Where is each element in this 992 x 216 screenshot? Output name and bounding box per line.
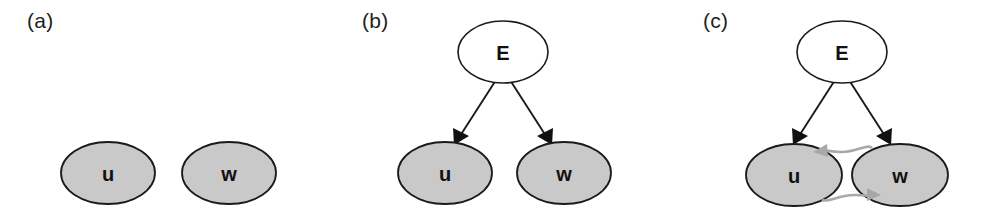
node-u: u: [398, 142, 492, 204]
node-e: E: [797, 21, 887, 83]
panel-c-graph: E u w: [670, 0, 992, 216]
node-e-label: E: [835, 42, 848, 64]
edge-e-to-w-line: [849, 80, 885, 136]
edge-e-to-u: [792, 80, 835, 145]
panel-a: (a) u w: [0, 0, 330, 216]
edge-e-to-u: [453, 80, 496, 145]
node-e: E: [458, 21, 548, 83]
node-u-label: u: [788, 165, 800, 187]
node-w: w: [517, 142, 611, 204]
panel-c: (c) E u: [670, 0, 992, 216]
node-e-label: E: [496, 42, 509, 64]
edge-association-top-curve: [822, 147, 872, 152]
edge-e-to-w: [849, 80, 892, 145]
edge-e-to-u-line: [460, 80, 496, 136]
node-w: w: [182, 142, 276, 204]
edge-e-to-u-arrowhead: [792, 128, 808, 145]
edge-e-to-w-arrowhead: [876, 128, 892, 145]
panel-b-graph: E u w: [330, 0, 670, 216]
node-u-label: u: [102, 163, 114, 185]
node-u: u: [61, 142, 155, 204]
panel-b: (b) E u: [330, 0, 670, 216]
edge-e-to-w: [510, 80, 553, 145]
node-w-label: w: [220, 163, 237, 185]
figure-root: (a) u w (b): [0, 0, 992, 216]
node-w-label: w: [555, 163, 572, 185]
node-u-label: u: [439, 163, 451, 185]
node-w-label: w: [891, 165, 908, 187]
panel-a-graph: u w: [0, 0, 330, 216]
edge-e-to-u-line: [799, 80, 835, 136]
edge-e-to-w-line: [510, 80, 546, 136]
